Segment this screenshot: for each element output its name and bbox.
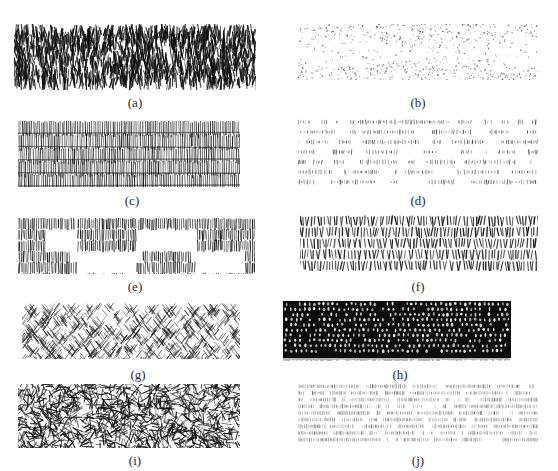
swatch-h — [283, 301, 511, 361]
label-d: (d) — [398, 194, 438, 207]
label-g: (g) — [118, 368, 158, 381]
swatch-c — [18, 121, 240, 187]
swatch-j — [298, 383, 538, 443]
texture-random-crosshatch-mesh — [18, 384, 240, 448]
texture-dense-vertical-scribble — [14, 24, 256, 90]
swatch-f — [300, 215, 538, 271]
swatch-b — [298, 24, 538, 80]
texture-horizontal-dash-lines — [298, 120, 538, 184]
swatch-a — [14, 24, 256, 90]
texture-dense-cells — [283, 301, 511, 361]
texture-stipple-dots — [298, 24, 538, 80]
swatch-i — [18, 384, 240, 448]
texture-short-vertical-strokes-rows — [300, 216, 538, 271]
label-i: (i) — [115, 454, 155, 467]
label-j: (j) — [398, 454, 438, 467]
label-c: (c) — [112, 194, 152, 207]
swatch-g — [22, 303, 240, 359]
label-f: (f) — [398, 280, 438, 293]
label-b: (b) — [398, 96, 438, 109]
label-h: (h) — [380, 368, 420, 381]
texture-fine-tick-lines — [298, 385, 538, 442]
label-e: (e) — [115, 280, 155, 293]
texture-vertical-hatch-rows — [18, 121, 240, 187]
swatch-e — [18, 218, 256, 274]
texture-vertical-hatch-with-gaps — [18, 218, 255, 274]
label-a: (a) — [115, 96, 155, 109]
texture-herringbone-diagonal — [22, 303, 240, 359]
swatch-d — [298, 117, 538, 187]
